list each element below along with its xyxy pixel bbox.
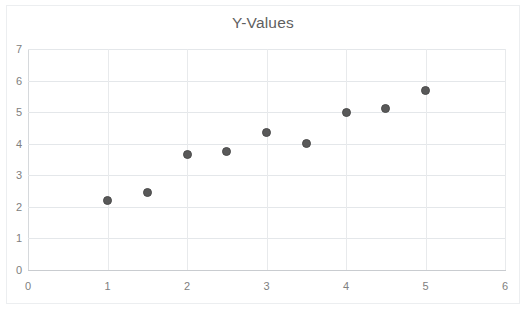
x-axis-tick-label: 2: [172, 281, 202, 292]
y-axis-tick-label: 5: [2, 107, 22, 118]
y-axis-tick-label: 2: [2, 202, 22, 213]
plot-right-edge: [505, 49, 506, 270]
scatter-point: [262, 128, 271, 137]
y-axis-tick-labels: 01234567: [0, 0, 22, 310]
scatter-point: [342, 108, 351, 117]
scatter-point: [103, 196, 112, 205]
plot-area: [28, 49, 505, 270]
x-axis-tick-label: 5: [411, 281, 441, 292]
y-axis-tick-label: 0: [2, 265, 22, 276]
scatter-point: [302, 139, 311, 148]
x-axis-tick-label: 3: [252, 281, 282, 292]
scatter-point: [222, 147, 231, 156]
gridline-vertical: [346, 49, 347, 270]
gridline-vertical: [267, 49, 268, 270]
x-axis-line: [28, 270, 506, 271]
gridline-vertical: [187, 49, 188, 270]
y-axis-tick-label: 7: [2, 44, 22, 55]
gridline-vertical: [426, 49, 427, 270]
y-axis-tick-label: 3: [2, 170, 22, 181]
x-axis-tick-label: 4: [331, 281, 361, 292]
chart-container: Y-Values 01234567 0123456: [0, 0, 526, 310]
scatter-point: [143, 188, 152, 197]
y-axis-tick-label: 1: [2, 233, 22, 244]
x-axis-tick-label: 1: [93, 281, 123, 292]
gridline-vertical: [108, 49, 109, 270]
chart-title: Y-Values: [0, 14, 526, 32]
y-axis-tick-label: 6: [2, 76, 22, 87]
y-axis-tick-label: 4: [2, 139, 22, 150]
x-axis-tick-label: 0: [13, 281, 43, 292]
scatter-point: [421, 86, 430, 95]
scatter-point: [183, 150, 192, 159]
x-axis-tick-label: 6: [490, 281, 520, 292]
